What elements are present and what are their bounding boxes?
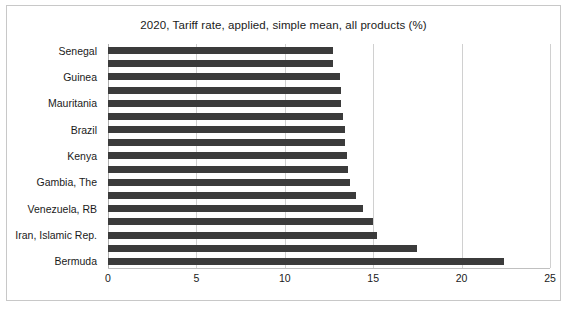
bar-row xyxy=(108,163,550,176)
bar-row xyxy=(108,123,550,136)
bar xyxy=(108,139,345,146)
bar xyxy=(108,47,333,54)
bar-series xyxy=(108,44,550,268)
x-axis-tick-labels: 0510152025 xyxy=(7,272,560,292)
bar-row xyxy=(108,176,550,189)
category-label: Brazil xyxy=(71,124,97,136)
bar xyxy=(108,179,350,186)
bar-row xyxy=(108,242,550,255)
bar-row xyxy=(108,136,550,149)
bar xyxy=(108,258,504,265)
gridline-25 xyxy=(550,44,551,268)
bar-row xyxy=(108,57,550,70)
chart-container: 2020, Tariff rate, applied, simple mean,… xyxy=(6,5,561,301)
category-label: Kenya xyxy=(67,150,97,162)
bar-row xyxy=(108,189,550,202)
bar xyxy=(108,73,340,80)
x-tick-label: 5 xyxy=(193,272,199,284)
bar xyxy=(108,166,348,173)
x-tick-label: 10 xyxy=(279,272,291,284)
bar xyxy=(108,218,373,225)
bar xyxy=(108,232,377,239)
bar-row xyxy=(108,70,550,83)
bar xyxy=(108,60,333,67)
bar xyxy=(108,126,345,133)
category-label: Gambia, The xyxy=(36,176,97,188)
bar-row xyxy=(108,44,550,57)
plot-area xyxy=(108,44,550,268)
category-label: Iran, Islamic Rep. xyxy=(15,229,97,241)
bar-row xyxy=(108,84,550,97)
bar-row xyxy=(108,202,550,215)
bar xyxy=(108,113,343,120)
bar-row xyxy=(108,255,550,268)
y-axis-category-labels: SenegalGuineaMauritaniaBrazilKenyaGambia… xyxy=(7,44,103,268)
x-tick-label: 20 xyxy=(456,272,468,284)
bar-row xyxy=(108,228,550,241)
bar-row xyxy=(108,149,550,162)
bar-row xyxy=(108,97,550,110)
category-label: Guinea xyxy=(63,71,97,83)
category-label: Senegal xyxy=(58,45,97,57)
bar xyxy=(108,205,363,212)
bar xyxy=(108,152,347,159)
x-tick-label: 0 xyxy=(105,272,111,284)
x-axis-line xyxy=(108,268,550,269)
bar xyxy=(108,100,341,107)
bar-row xyxy=(108,215,550,228)
category-label: Venezuela, RB xyxy=(28,203,97,215)
chart-title: 2020, Tariff rate, applied, simple mean,… xyxy=(7,19,560,31)
x-tick-label: 15 xyxy=(367,272,379,284)
bar xyxy=(108,245,417,252)
bar-row xyxy=(108,110,550,123)
category-label: Bermuda xyxy=(54,255,97,267)
x-tick-label: 25 xyxy=(544,272,556,284)
bar xyxy=(108,192,356,199)
bar xyxy=(108,87,341,94)
category-label: Mauritania xyxy=(48,97,97,109)
